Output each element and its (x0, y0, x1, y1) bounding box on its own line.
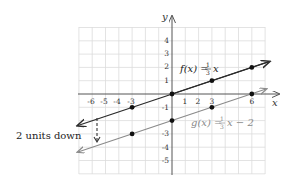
svg-text:g(x) =: g(x) = (191, 117, 222, 128)
y-axis-label: y (161, 11, 168, 22)
svg-text:2: 2 (196, 97, 201, 106)
svg-text:x: x (213, 63, 219, 74)
f-equation-label: f(x) = 1 3 x (179, 61, 219, 76)
svg-text:3: 3 (220, 123, 224, 130)
x-axis-label: x (272, 97, 278, 108)
svg-text:6: 6 (250, 97, 255, 106)
svg-text:-4: -4 (162, 143, 170, 152)
svg-text:2: 2 (164, 62, 169, 71)
svg-text:-3: -3 (127, 97, 135, 106)
svg-text:-5: -5 (162, 156, 170, 165)
svg-text:1: 1 (164, 76, 169, 85)
svg-text:3: 3 (164, 49, 169, 58)
graph-figure: x y -6 -5 -4 -3 1 2 3 6 4 3 2 1 -1 -3 -4… (0, 0, 294, 183)
svg-text:1: 1 (183, 97, 188, 106)
shift-down-arrow-icon (94, 118, 100, 142)
svg-text:3: 3 (206, 69, 210, 76)
svg-text:1: 1 (220, 115, 224, 122)
svg-text:-3: -3 (162, 129, 170, 138)
g-equation-label: g(x) = 1 3 x − 2 (191, 115, 254, 130)
shift-annotation-label: 2 units down (16, 130, 81, 141)
svg-text:-6: -6 (87, 97, 95, 106)
svg-text:f(x) =: f(x) = (179, 63, 209, 74)
svg-text:-5: -5 (100, 97, 108, 106)
y-tick-labels: 4 3 2 1 -1 -3 -4 -5 (162, 36, 170, 165)
svg-text:1: 1 (206, 61, 210, 68)
svg-text:4: 4 (164, 36, 169, 45)
svg-text:x − 2: x − 2 (227, 117, 254, 128)
svg-text:3: 3 (210, 97, 215, 106)
svg-text:-1: -1 (162, 103, 169, 112)
svg-text:-4: -4 (113, 97, 121, 106)
